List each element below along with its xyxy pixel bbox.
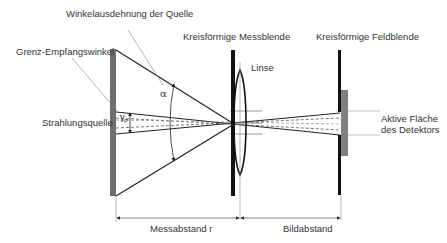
label-measuring-distance: Messabstand r	[150, 223, 212, 234]
dashed-ray-2	[116, 118, 340, 128]
outer-ray-bottom	[116, 124, 234, 196]
label-measuring-aperture: Kreisförmige Messblende	[183, 31, 290, 42]
label-image-distance: Bildabstand	[283, 223, 333, 234]
leader-angular-extent	[128, 30, 163, 85]
alpha-arc	[170, 84, 174, 161]
label-angular-extent: Winkelausdehnung der Quelle	[66, 8, 193, 19]
label-acceptance-angle: Grenz-Empfangswinkel	[16, 46, 114, 57]
optical-diagram: α γ P Winkelausdehnung der Quelle Grenz-…	[0, 0, 447, 243]
field-stop-top	[338, 50, 341, 112]
detector-active-area	[341, 90, 348, 156]
label-detector-line2: des Detektors	[381, 124, 440, 135]
label-radiation-source: Strahlungsquelle	[42, 117, 113, 128]
outer-ray-top	[116, 50, 234, 124]
field-stop-bottom	[338, 135, 341, 195]
alpha-symbol: α	[160, 88, 167, 99]
gamma-subscript: P	[124, 118, 128, 124]
label-lens: Linse	[251, 62, 274, 73]
label-field-stop: Kreisförmige Feldblende	[316, 31, 419, 42]
label-detector-line1: Aktive Fläche	[381, 113, 438, 124]
